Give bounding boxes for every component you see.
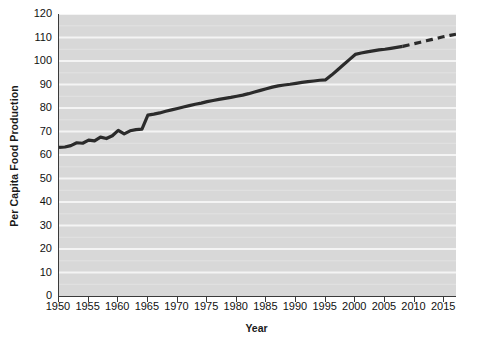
y-tick-label: 120 xyxy=(6,8,52,19)
x-tick-mark xyxy=(325,297,326,302)
y-tick-label: 20 xyxy=(6,243,52,254)
y-tick-label: 10 xyxy=(6,267,52,278)
y-axis-tick-labels: 0102030405060708090100110120 xyxy=(0,0,52,345)
y-tick-label: 100 xyxy=(6,55,52,66)
x-tick-mark xyxy=(354,297,355,302)
y-tick-label: 80 xyxy=(6,102,52,113)
x-tick-mark xyxy=(147,297,148,302)
x-tick-mark xyxy=(88,297,89,302)
x-tick-mark xyxy=(265,297,266,302)
x-tick-mark xyxy=(236,297,237,302)
y-tick-label: 40 xyxy=(6,196,52,207)
x-tick-mark xyxy=(117,297,118,302)
data-lines xyxy=(59,34,456,147)
x-tick-mark xyxy=(295,297,296,302)
y-tick-label: 30 xyxy=(6,220,52,231)
data-line xyxy=(403,34,456,46)
chart-svg xyxy=(59,14,456,296)
y-tick-label: 110 xyxy=(6,32,52,43)
x-axis-title: Year xyxy=(58,322,455,334)
x-tick-mark xyxy=(443,297,444,302)
per-capita-food-production-chart: Per Capita Food Production 0102030405060… xyxy=(0,0,480,345)
y-tick-label: 90 xyxy=(6,79,52,90)
x-tick-mark xyxy=(58,297,59,302)
plot-area xyxy=(58,14,456,297)
y-tick-label: 60 xyxy=(6,149,52,160)
y-tick-label: 70 xyxy=(6,126,52,137)
x-tick-mark xyxy=(206,297,207,302)
y-tick-label: 50 xyxy=(6,173,52,184)
x-tick-mark xyxy=(414,297,415,302)
x-tick-mark xyxy=(177,297,178,302)
x-tick-mark xyxy=(384,297,385,302)
